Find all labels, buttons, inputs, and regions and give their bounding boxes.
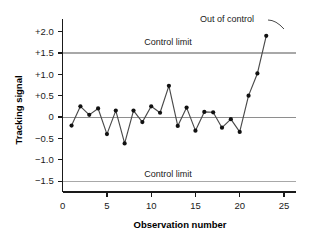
y-tick-label: −1.5 (35, 175, 54, 186)
data-point (123, 141, 127, 145)
x-tick-label: 5 (104, 200, 109, 211)
lower-control-limit-label: Control limit (144, 169, 192, 179)
data-point (167, 84, 171, 88)
tracking-signal-chart: +2.0+1.5+1.0+0.50−0.5−1.0−1.5 0510152025… (0, 0, 317, 242)
y-tick-label: +1.0 (35, 69, 54, 80)
data-point (220, 126, 224, 130)
data-point (246, 94, 250, 98)
data-point (255, 71, 259, 75)
data-point (229, 117, 233, 121)
y-tick-label: +1.5 (35, 47, 54, 58)
y-tick-label: 0 (48, 111, 53, 122)
data-point (238, 130, 242, 134)
data-point (202, 110, 206, 114)
x-tick-label: 15 (190, 200, 201, 211)
data-point (149, 104, 153, 108)
data-point (211, 110, 215, 114)
data-point (87, 113, 91, 117)
upper-control-limit-label: Control limit (144, 37, 192, 47)
out-of-control-annotation: Out of control (200, 14, 254, 24)
data-point (193, 129, 197, 133)
data-point (264, 34, 268, 38)
data-point (105, 132, 109, 136)
y-tick-label: +2.0 (35, 26, 54, 37)
x-axis-title: Observation number (134, 219, 227, 230)
data-point (78, 104, 82, 108)
x-tick-label: 20 (234, 200, 245, 211)
y-tick-label: −0.5 (35, 133, 54, 144)
data-point (131, 108, 135, 112)
y-tick-label: +0.5 (35, 90, 54, 101)
data-point (96, 106, 100, 110)
x-tick-label: 10 (146, 200, 157, 211)
y-axis-title: Tracking signal (13, 75, 24, 144)
data-point (114, 108, 118, 112)
data-point (158, 111, 162, 115)
data-point (185, 106, 189, 110)
data-point (69, 123, 73, 127)
y-tick-label: −1.0 (35, 154, 54, 165)
x-tick-label: 25 (279, 200, 290, 211)
data-point (176, 124, 180, 128)
x-tick-label: 0 (60, 200, 65, 211)
data-point (140, 120, 144, 124)
chart-canvas: +2.0+1.5+1.0+0.50−0.5−1.0−1.5 0510152025… (0, 0, 317, 242)
